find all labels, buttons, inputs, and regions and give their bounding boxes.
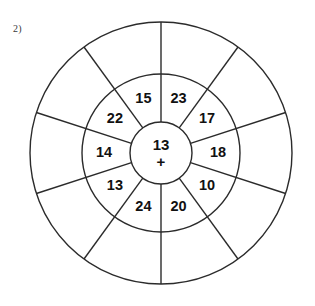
addition-wheel-puzzle: 2317181020241314221513+ xyxy=(0,0,315,306)
middle-ring-cell-9: 15 xyxy=(135,90,151,106)
wheel-svg: 2317181020241314221513+ xyxy=(0,0,315,306)
middle-ring-cell-7: 14 xyxy=(96,144,112,160)
middle-ring-cell-5: 24 xyxy=(135,198,151,214)
middle-ring-cell-3: 10 xyxy=(199,177,215,193)
center-number: 13 xyxy=(153,136,170,153)
middle-ring-cell-6: 13 xyxy=(107,177,123,193)
center-operator: + xyxy=(157,153,166,170)
middle-ring-cell-0: 23 xyxy=(171,90,187,106)
middle-ring-cell-4: 20 xyxy=(171,198,187,214)
middle-ring-cell-1: 17 xyxy=(199,110,215,126)
middle-ring-cell-8: 22 xyxy=(107,110,123,126)
middle-ring-cell-2: 18 xyxy=(210,144,226,160)
